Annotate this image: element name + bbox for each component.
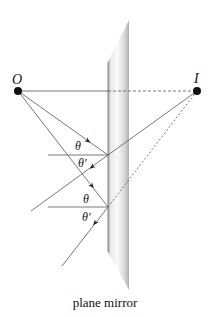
angle-label-theta-1: θ: [75, 139, 81, 153]
angle-label-theta-prime-1: θ′: [78, 156, 87, 170]
image-point: [193, 87, 201, 95]
incident-ray-2: [18, 91, 108, 207]
incident-ray-1: [18, 91, 108, 155]
object-label: O: [12, 72, 22, 87]
caption: plane mirror: [73, 295, 138, 310]
angle-label-theta-2: θ: [83, 192, 89, 206]
image-label: I: [193, 71, 200, 86]
object-point: [14, 87, 22, 95]
plane-mirror-diagram: O I θ θ′ θ θ′ plane mirror: [0, 0, 210, 317]
mirror: [108, 20, 129, 290]
reflected-ray-1: [31, 155, 108, 211]
angle-label-theta-prime-2: θ′: [82, 210, 91, 224]
